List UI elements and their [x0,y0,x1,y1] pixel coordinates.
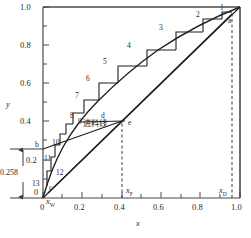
y-tick-0-6: 0.6 [20,79,31,88]
stage-number-7: 7 [75,92,79,100]
point-b-label: b [35,141,39,149]
stage-number-5: 5 [103,58,107,66]
xw-label: xW [46,197,55,208]
x-tick-0-8: 0.8 [192,203,203,212]
xf-label: xF [126,186,133,197]
stage-number-12: 12 [56,169,64,177]
stage-step-4 [147,50,176,66]
xf-sub: F [130,191,133,197]
stage-number-6: 6 [86,75,90,83]
stage-number-4: 4 [127,42,131,50]
stage-number-1: 1 [220,4,224,12]
stripping-operating-line [48,121,122,193]
y-axis-label: y [6,100,10,109]
point-c-label: c [49,184,52,192]
mccabe-thiele-chart: 1.0 0.8 0.6 0.4 0.2 0 0 0.2 0.4 0.6 0.8 … [0,0,251,238]
stage-number-10: 10 [52,139,60,147]
y-tick-0-4: 0.4 [20,117,31,126]
x-axis-label: x [136,219,140,228]
x-tick-0-4: 0.4 [114,203,125,212]
stage-number-2: 2 [196,11,200,19]
y-tick-1-0: 1.0 [20,3,31,12]
xw-sub: W [50,202,55,208]
y-tick-0: 0 [34,188,38,197]
stage-number-8: 8 [70,112,74,120]
stage-number-9: 9 [78,118,82,126]
stage-number-11: 11 [44,155,51,163]
xd-label: xD [219,186,227,197]
x-tick-1-0: 1.0 [231,203,242,212]
rectifying-operating-line [122,14,232,121]
xd-sub: D [223,191,227,197]
y-tick-0-2: 0.2 [26,156,37,165]
x-tick-0-2: 0.2 [74,203,85,212]
stage-step-2 [203,19,222,32]
stage-step-5 [118,66,147,83]
stage-number-3: 3 [159,24,163,32]
feed-line-label: 进料线 [83,120,107,128]
x-axis-ticks [43,192,240,198]
x-tick-0-6: 0.6 [153,203,164,212]
intercept-value-label: 0.258 [0,169,18,177]
x-tick-0: 0 [40,203,44,212]
chart-canvas [0,0,251,238]
stage-number-13: 13 [32,180,40,188]
y-tick-0-8: 0.8 [20,41,31,50]
point-e-label: e [128,119,131,127]
point-a-label: a [228,17,231,25]
